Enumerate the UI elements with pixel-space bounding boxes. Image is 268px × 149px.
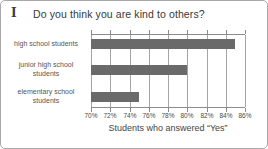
x-tick-label: 86% (234, 112, 256, 119)
survey-chart-card: I Do you think you are kind to others? h… (0, 0, 268, 149)
category-label: high school students (5, 39, 87, 48)
axis-tick (110, 30, 111, 34)
x-tick-label: 80% (176, 112, 198, 119)
category-label: junior high schoolstudents (5, 60, 87, 78)
bar-chart: high school studentsjunior high schoolst… (1, 1, 267, 148)
bar (91, 92, 139, 102)
axis-tick (207, 30, 208, 34)
axis-tick (168, 30, 169, 34)
plot-area (91, 34, 245, 108)
bar (91, 65, 187, 75)
x-tick-label: 72% (99, 112, 121, 119)
axis-tick (226, 30, 227, 34)
gridline (245, 35, 246, 107)
category-label: elementary schoolstudents (5, 87, 87, 105)
x-axis-label: Students who answered “Yes” (91, 123, 245, 133)
axis-tick (91, 30, 92, 34)
axis-tick (187, 30, 188, 34)
axis-tick (130, 30, 131, 34)
axis-tick (245, 30, 246, 34)
axis-tick (149, 30, 150, 34)
bar (91, 39, 235, 49)
